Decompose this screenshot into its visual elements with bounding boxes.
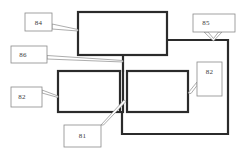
callout-82-left-box bbox=[11, 87, 42, 107]
figure-canvas: 84 85 86 82 82 81 bbox=[0, 0, 239, 158]
callout-81-label: 81 bbox=[79, 132, 87, 140]
callout-86-leader bbox=[47, 56, 123, 63]
callout-82-left-leader bbox=[42, 90, 58, 98]
callout-82-right[interactable]: 82 bbox=[188, 62, 222, 96]
lower-right-block[interactable] bbox=[127, 71, 188, 112]
lower-left-block[interactable] bbox=[58, 71, 120, 112]
callout-85[interactable]: 85 bbox=[193, 14, 235, 41]
callout-84[interactable]: 84 bbox=[25, 13, 78, 31]
callout-86-label: 86 bbox=[19, 51, 27, 59]
callout-84-leader bbox=[52, 24, 78, 31]
diagram-svg: 84 85 86 82 82 81 bbox=[0, 0, 239, 158]
callout-84-label: 84 bbox=[35, 19, 43, 27]
callout-82-right-leader bbox=[188, 82, 197, 94]
callout-82-left-label: 82 bbox=[18, 93, 26, 101]
callout-85-box bbox=[193, 14, 235, 32]
callout-86-box bbox=[11, 46, 47, 63]
upper-block[interactable] bbox=[78, 12, 167, 55]
callout-82-right-label: 82 bbox=[206, 68, 214, 76]
callout-82-left[interactable]: 82 bbox=[11, 87, 58, 107]
callout-85-label: 85 bbox=[202, 19, 210, 27]
